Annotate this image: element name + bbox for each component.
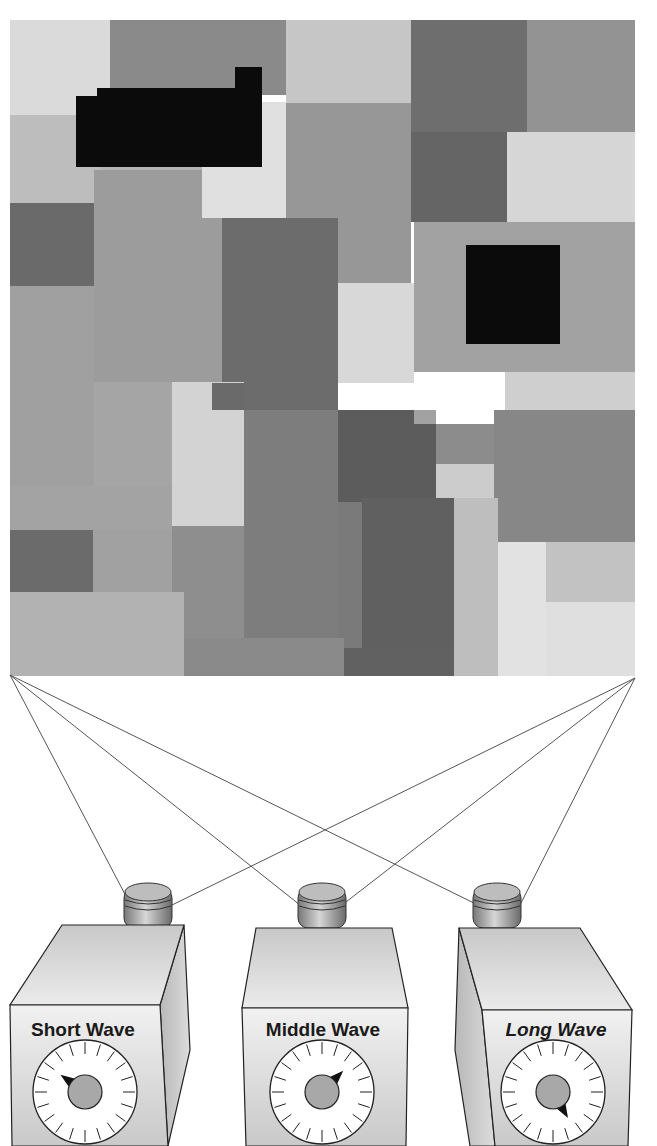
camera-short: Short Wave xyxy=(10,883,190,1146)
camera-top-face xyxy=(459,928,632,1010)
mondrian-patch xyxy=(505,372,635,410)
mondrian-patch xyxy=(527,20,635,132)
mondrian-patch xyxy=(338,502,362,648)
mondrian-patch xyxy=(507,132,635,222)
mondrian-patch xyxy=(411,132,507,222)
mondrian-patch xyxy=(244,410,338,648)
camera-label: Short Wave xyxy=(31,1019,135,1040)
mondrian-patch xyxy=(411,20,527,132)
mondrian-patch xyxy=(546,602,635,676)
mondrian-patch xyxy=(338,283,414,383)
mondrian-patch xyxy=(344,648,454,676)
dial-icon xyxy=(33,1040,137,1144)
mondrian-patch xyxy=(498,542,546,676)
mondrian-patch xyxy=(222,218,338,410)
sight-lines xyxy=(10,675,635,905)
mondrian-patch xyxy=(10,286,94,486)
mondrian-patch xyxy=(414,410,436,424)
mondrian-patch xyxy=(10,486,172,530)
mondrian-patch xyxy=(466,245,560,344)
mondrian-patch xyxy=(494,410,635,542)
sight-line xyxy=(520,678,635,905)
mondrian-patch xyxy=(10,592,184,676)
camera-middle: Middle Wave xyxy=(242,883,408,1146)
color-mondrian-panel xyxy=(10,20,635,676)
dial-icon xyxy=(270,1040,374,1144)
mondrian-patch xyxy=(184,638,344,676)
dial-knob xyxy=(68,1075,102,1109)
mondrian-patch xyxy=(93,530,172,592)
mondrian-patch xyxy=(436,424,494,464)
lens-icon xyxy=(473,883,521,928)
mondrian-patch xyxy=(454,498,498,676)
sight-line xyxy=(172,678,635,905)
sight-line xyxy=(346,678,635,902)
diagram-canvas: Short WaveMiddle WaveLong Wave xyxy=(0,0,657,1146)
dial-knob xyxy=(536,1075,570,1109)
mondrian-patch xyxy=(10,203,94,286)
mondrian-patch xyxy=(286,20,411,103)
sight-line xyxy=(10,675,478,905)
camera-top-face xyxy=(10,925,184,1005)
dial-knob xyxy=(305,1075,339,1109)
mondrian-patch xyxy=(546,542,635,602)
mondrian-patch xyxy=(94,382,172,486)
camera-long: Long Wave xyxy=(455,883,632,1146)
camera-top-face xyxy=(242,928,408,1008)
dial-icon xyxy=(501,1040,605,1144)
sight-line xyxy=(10,675,128,900)
mondrian-patch xyxy=(436,464,494,498)
mondrian-patch xyxy=(235,67,262,92)
mondrian-patch xyxy=(76,96,262,167)
sight-line xyxy=(10,675,300,905)
camera-label: Long Wave xyxy=(506,1019,607,1040)
lens-icon xyxy=(298,883,346,928)
camera-label: Middle Wave xyxy=(266,1019,380,1040)
mondrian-patch xyxy=(212,383,244,410)
lens-icon xyxy=(124,883,172,928)
camera-group: Short WaveMiddle WaveLong Wave xyxy=(10,883,632,1146)
